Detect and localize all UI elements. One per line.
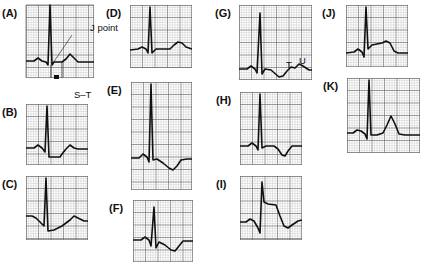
ecg-strip bbox=[133, 200, 193, 262]
ecg-strip bbox=[240, 176, 302, 240]
panel-label: (D) bbox=[106, 7, 121, 19]
annotation-t: T bbox=[286, 59, 292, 70]
ecg-strip bbox=[130, 5, 192, 68]
ecg-strip bbox=[240, 92, 302, 165]
panel-label: (F) bbox=[109, 202, 123, 214]
annotation-u: U bbox=[299, 55, 306, 66]
ecg-strip bbox=[346, 5, 408, 67]
panel-label: (B) bbox=[2, 106, 17, 118]
annotation-j-point: J point bbox=[90, 22, 118, 33]
panel-label: (H) bbox=[216, 94, 231, 106]
ecg-strip bbox=[26, 104, 88, 165]
ecg-strip bbox=[347, 78, 420, 153]
panel-label: (C) bbox=[2, 178, 17, 190]
panel-label: (I) bbox=[216, 178, 226, 190]
panel-label: (J) bbox=[322, 7, 335, 19]
ecg-strip bbox=[26, 5, 94, 78]
panel-label: (G) bbox=[215, 7, 231, 19]
panel-label: (K) bbox=[323, 80, 338, 92]
panel-label: (E) bbox=[107, 84, 122, 96]
ecg-strip bbox=[26, 176, 88, 240]
annotation-s-t: S–T bbox=[74, 89, 91, 100]
panel-label: (A) bbox=[2, 7, 17, 19]
ecg-strip bbox=[239, 5, 312, 80]
st-segment-marker bbox=[54, 75, 59, 79]
ecg-strip bbox=[131, 82, 192, 190]
